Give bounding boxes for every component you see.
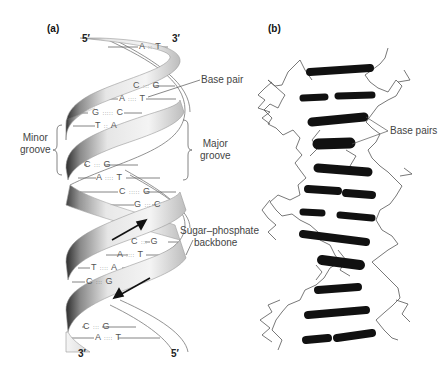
base-pair-bar: [306, 338, 328, 340]
panel-b-molecular-model: [0, 0, 446, 372]
base-pair-bar: [322, 260, 360, 265]
base-pair-bar: [318, 287, 358, 290]
base-pair-bar: [318, 143, 350, 144]
base-pair-bar: [318, 168, 368, 172]
base-pair-bar: [337, 333, 372, 338]
base-pair-bar: [303, 234, 366, 242]
base-pair-bar: [338, 95, 372, 96]
backbone-wireframe: [258, 48, 412, 350]
base-pair-bar: [346, 193, 372, 195]
panel-b-label: (b): [268, 23, 281, 34]
base-pair-bar: [308, 189, 338, 191]
base-pair-bar: [303, 97, 325, 98]
base-pair-bar: [308, 310, 366, 315]
base-pair-bar: [303, 212, 322, 213]
base-pairs-annotation: Base pairs: [390, 125, 437, 137]
base-pair-bars: [303, 68, 372, 340]
base-pair-bar: [312, 117, 364, 122]
base-pair-bar: [310, 68, 370, 72]
base-pair-bar: [340, 215, 372, 218]
